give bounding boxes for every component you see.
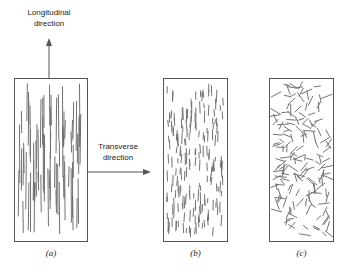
panel-b-fibers xyxy=(164,79,227,241)
transverse-direction-label: Transverse direction xyxy=(86,142,150,164)
longitudinal-direction-label: Longitudinal direction xyxy=(6,8,92,30)
longitudinal-label-line1: Longitudinal xyxy=(6,8,92,19)
panel-b-discontinuous-aligned xyxy=(163,78,228,242)
fiber-orientation-figure: Longitudinal direction Transverse direct… xyxy=(0,0,349,272)
panel-a-caption: (a) xyxy=(14,248,88,258)
transverse-direction-arrow xyxy=(88,169,151,175)
panel-a-continuous-aligned xyxy=(14,78,88,242)
panel-b-caption: (b) xyxy=(163,248,228,258)
panel-c-caption: (c) xyxy=(269,248,334,258)
longitudinal-direction-arrow xyxy=(46,38,52,78)
panel-c-discontinuous-random xyxy=(269,78,334,242)
panel-c-fibers xyxy=(270,79,333,241)
longitudinal-label-line2: direction xyxy=(6,19,92,30)
transverse-label-line2: direction xyxy=(86,153,150,164)
transverse-label-line1: Transverse xyxy=(86,142,150,153)
panel-a-fibers xyxy=(15,79,87,241)
